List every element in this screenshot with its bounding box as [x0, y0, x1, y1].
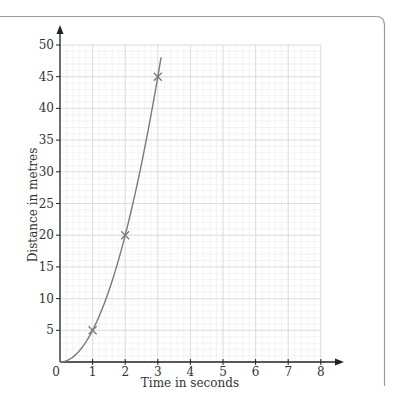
chart: 0123456785101520253035404550 Time in sec… [0, 0, 402, 413]
axis-ticks [56, 45, 321, 365]
x-tick-label: 2 [121, 365, 129, 379]
y-tick-label: 30 [39, 165, 54, 179]
y-tick-label: 5 [46, 323, 54, 337]
y-tick-label: 40 [39, 101, 54, 115]
x-axis-title: Time in seconds [141, 376, 239, 390]
y-axis-arrow-icon [57, 25, 64, 34]
y-tick-label: 10 [39, 292, 54, 306]
y-tick-label: 25 [39, 197, 54, 211]
x-tick-label: 8 [317, 365, 325, 379]
y-tick-label: 15 [39, 260, 54, 274]
y-tick-label: 35 [39, 133, 54, 147]
x-tick-label: 7 [284, 365, 292, 379]
y-axis-title: Distance in metres [26, 148, 40, 263]
y-tick-label: 45 [39, 70, 54, 84]
x-tick-label: 6 [252, 365, 260, 379]
x-tick-label: 1 [89, 365, 97, 379]
y-tick-label: 50 [39, 38, 54, 52]
y-tick-label: 20 [39, 228, 54, 242]
x-tick-label: 0 [52, 365, 60, 379]
x-axis-arrow-icon [335, 359, 344, 366]
